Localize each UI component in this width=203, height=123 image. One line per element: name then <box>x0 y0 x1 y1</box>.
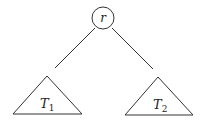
subtree-t2-label: T2 <box>153 97 167 114</box>
root-node: r <box>92 7 114 29</box>
tree-diagram: r T1 T2 <box>0 0 203 123</box>
subtree-t1: T1 <box>13 76 82 114</box>
edge-root-to-t2 <box>112 28 153 69</box>
edge-root-to-t1 <box>55 28 95 68</box>
subtree-t1-label: T1 <box>40 96 54 113</box>
subtree-t2: T2 <box>125 77 193 115</box>
